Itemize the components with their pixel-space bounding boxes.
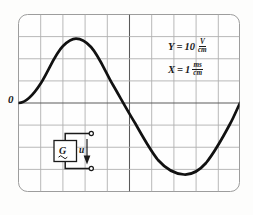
setting-y-value: 10 <box>184 41 195 52</box>
setting-y-unit: V cm <box>197 39 208 54</box>
voltage-label: u <box>79 145 84 155</box>
terminal-bottom-icon <box>89 166 93 170</box>
setting-x-unit: ms cm <box>192 62 203 77</box>
generator-source-label: G <box>59 145 66 156</box>
terminal-top-icon <box>89 131 93 135</box>
setting-y-symbol: Y <box>168 41 174 52</box>
oscilloscope-screen: 0 Y = 10 V cm X = 1 ms cm G u <box>0 0 253 215</box>
setting-x-value: 1 <box>185 64 190 75</box>
zero-label: 0 <box>8 93 14 105</box>
setting-x-unit-denominator: cm <box>192 70 203 77</box>
setting-x-symbol: X <box>168 64 175 75</box>
scope-drawing <box>0 0 253 215</box>
setting-y-unit-denominator: cm <box>197 47 208 54</box>
setting-y-equals: = <box>176 41 182 52</box>
setting-x-equals: = <box>177 64 183 75</box>
setting-vertical-sensitivity: Y = 10 V cm <box>168 39 208 54</box>
setting-timebase: X = 1 ms cm <box>168 62 203 77</box>
